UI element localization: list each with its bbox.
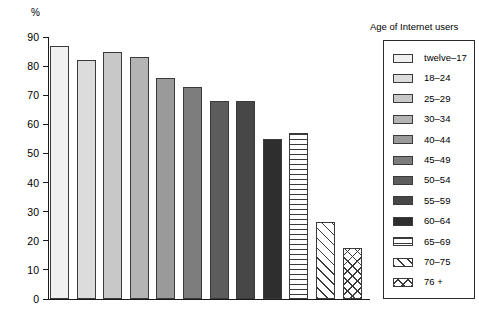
y-axis-tick-label: 40 [12, 178, 39, 189]
legend-item-label: 45–49 [424, 155, 450, 165]
legend: twelve–1718–2425–2930–3440–4445–4950–545… [383, 40, 475, 299]
y-axis-unit-label: % [31, 8, 40, 18]
bar [77, 60, 96, 299]
legend-item[interactable]: 40–44 [393, 130, 450, 150]
legend-swatch-icon [393, 135, 413, 144]
legend-item-label: 40–44 [424, 135, 450, 145]
legend-item[interactable]: 76 + [393, 272, 443, 292]
legend-item-label: 60–64 [424, 216, 450, 226]
y-axis-tick [43, 95, 48, 96]
y-axis-tick [43, 182, 48, 183]
legend-swatch-icon [393, 278, 413, 287]
legend-item[interactable]: 45–49 [393, 150, 450, 170]
x-axis-line [48, 299, 370, 300]
legend-item[interactable]: 65–69 [393, 232, 450, 252]
legend-swatch-icon [393, 217, 413, 226]
legend-item[interactable]: 60–64 [393, 211, 450, 231]
bar [263, 139, 282, 299]
bar [316, 222, 335, 299]
bar [343, 248, 362, 299]
bar [210, 101, 229, 299]
y-axis-tick-label: 20 [12, 236, 39, 247]
y-axis-tick-label: 90 [12, 32, 39, 43]
y-axis-tick [43, 37, 48, 38]
legend-item-label: 25–29 [424, 94, 450, 104]
y-axis-tick [43, 66, 48, 67]
y-axis-tick-label: 0 [12, 294, 39, 305]
legend-item[interactable]: 30–34 [393, 109, 450, 129]
y-axis-tick [43, 211, 48, 212]
bar [130, 57, 149, 299]
bar [183, 87, 202, 300]
legend-item[interactable]: 50–54 [393, 170, 450, 190]
legend-swatch-icon [393, 54, 413, 63]
y-axis-tick [43, 240, 48, 241]
y-axis-tick [43, 299, 48, 300]
legend-swatch-icon [393, 176, 413, 185]
y-axis-line [48, 37, 49, 299]
bar [103, 52, 122, 299]
legend-swatch-icon [393, 115, 413, 124]
legend-item-label: 18–24 [424, 73, 450, 83]
legend-swatch-icon [393, 94, 413, 103]
legend-item-label: 65–69 [424, 237, 450, 247]
legend-swatch-icon [393, 237, 413, 246]
bar-chart: % 0102030405060708090 Age of Internet us… [0, 0, 479, 324]
bar [156, 78, 175, 299]
y-axis-tick [43, 153, 48, 154]
legend-swatch-icon [393, 156, 413, 165]
legend-item[interactable]: 25–29 [393, 89, 450, 109]
y-axis-tick-label: 50 [12, 148, 39, 159]
legend-swatch-icon [393, 196, 413, 205]
bar [289, 133, 308, 299]
bar [236, 101, 255, 299]
legend-item-label: twelve–17 [424, 53, 467, 63]
y-axis-tick-label: 80 [12, 61, 39, 72]
y-axis-tick [43, 124, 48, 125]
bar [50, 46, 69, 299]
legend-item[interactable]: 18–24 [393, 68, 450, 88]
y-axis-tick-label: 30 [12, 207, 39, 218]
legend-swatch-icon [393, 74, 413, 83]
legend-item-label: 70–75 [424, 257, 450, 267]
y-axis-tick-label: 10 [12, 265, 39, 276]
y-axis-tick-label: 70 [12, 90, 39, 101]
y-axis-tick [43, 269, 48, 270]
legend-item-label: 55–59 [424, 196, 450, 206]
legend-item[interactable]: 55–59 [393, 191, 450, 211]
legend-swatch-icon [393, 258, 413, 267]
legend-item[interactable]: twelve–17 [393, 48, 467, 68]
legend-item[interactable]: 70–75 [393, 252, 450, 272]
legend-item-label: 50–54 [424, 175, 450, 185]
legend-title: Age of Internet users [370, 22, 458, 32]
legend-item-label: 30–34 [424, 114, 450, 124]
y-axis-tick-label: 60 [12, 119, 39, 130]
legend-item-label: 76 + [424, 277, 443, 287]
